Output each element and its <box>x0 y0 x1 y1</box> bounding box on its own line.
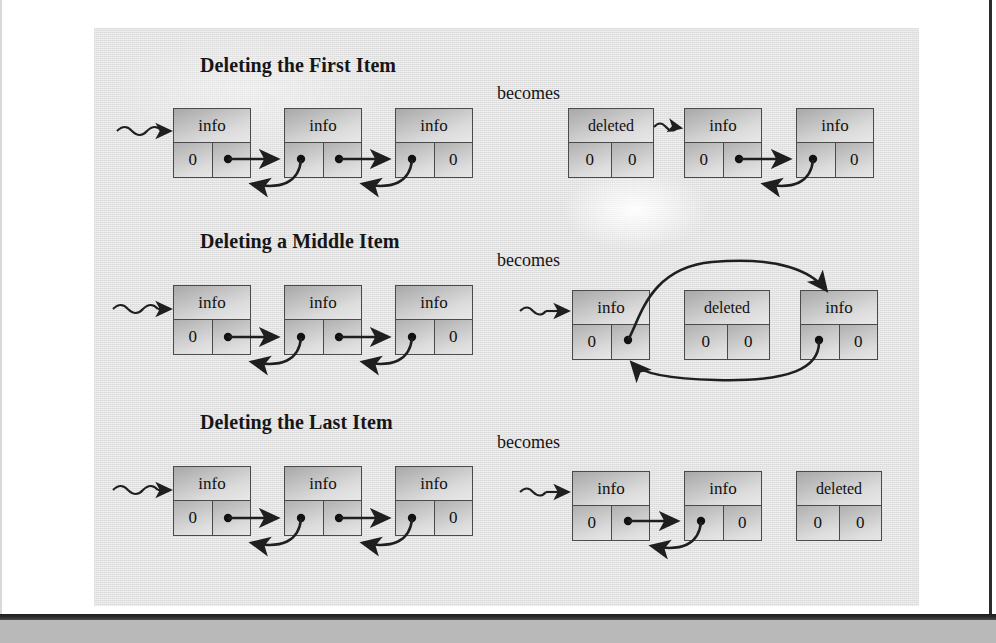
head-pointer-squiggle-row3 <box>113 486 170 494</box>
next-pointer-row3-n1 <box>224 514 277 522</box>
next-pointer-row3-after-n1 <box>624 517 677 525</box>
next-pointer-row2-n2 <box>335 333 388 341</box>
next-pointer-row1-after-n2 <box>735 155 789 163</box>
head-pointer-squiggle-row2-after <box>520 308 568 315</box>
next-pointer-row1-n1 <box>224 155 277 163</box>
page-canvas: Deleting the First Item becomes info 0 i… <box>0 0 996 643</box>
arrow-layer <box>0 0 996 643</box>
next-pointer-row2-n1 <box>224 333 277 341</box>
next-pointer-row1-n2 <box>335 155 388 163</box>
prev-pointer-row2-after-bypass <box>632 336 823 380</box>
head-pointer-squiggle-row3-after <box>520 489 568 496</box>
next-pointer-row3-n2 <box>335 514 388 522</box>
deleted-pointer-squiggle-row1 <box>654 124 681 131</box>
head-pointer-squiggle-row1 <box>117 127 170 135</box>
head-pointer-squiggle-row2 <box>113 305 170 313</box>
next-pointer-row2-after-bypass <box>624 261 826 344</box>
